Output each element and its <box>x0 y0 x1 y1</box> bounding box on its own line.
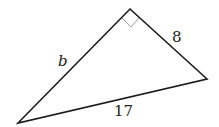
label-left-leg: b <box>58 52 68 70</box>
triangle <box>18 9 207 123</box>
label-right-leg: 8 <box>172 28 182 46</box>
label-hypotenuse: 17 <box>114 102 133 120</box>
triangle-diagram: b 8 17 <box>0 0 219 127</box>
right-angle-marker <box>122 18 139 27</box>
